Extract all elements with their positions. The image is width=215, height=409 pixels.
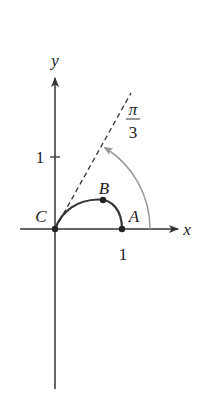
y-tick-label: 1 bbox=[36, 148, 45, 167]
y-axis-label: y bbox=[49, 51, 59, 70]
angle-label: π 3 bbox=[126, 100, 140, 142]
point-C-label: C bbox=[35, 207, 47, 226]
x-axis-label: x bbox=[182, 220, 191, 239]
x-tick-label: 1 bbox=[119, 245, 128, 264]
point-C bbox=[52, 226, 58, 232]
dashed-ray-pi-over-3 bbox=[55, 93, 131, 229]
polar-diagram: y x 1 1 π 3 C B A bbox=[0, 0, 215, 409]
point-A-label: A bbox=[128, 207, 140, 226]
point-B-label: B bbox=[99, 179, 110, 198]
point-A bbox=[119, 226, 125, 232]
angle-arc bbox=[105, 148, 151, 230]
polar-curve bbox=[55, 199, 122, 229]
angle-denominator: 3 bbox=[129, 123, 138, 142]
angle-numerator: π bbox=[129, 100, 138, 119]
